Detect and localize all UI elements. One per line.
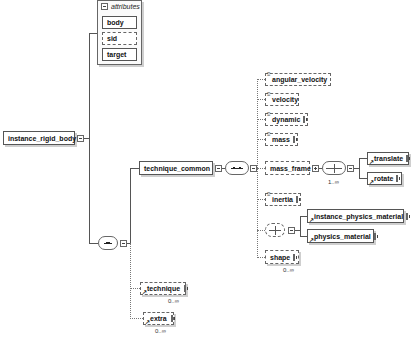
expand-icon[interactable] <box>303 116 305 123</box>
reference-arrow-icon: ↗ <box>142 289 147 295</box>
sequence-compositor[interactable] <box>98 236 118 250</box>
attributes-header[interactable]: attributes <box>101 3 140 10</box>
attribute-marker-icon: ≡ <box>267 91 271 97</box>
expand-icon[interactable] <box>312 165 319 172</box>
element-label: shape <box>270 254 290 261</box>
connector <box>130 168 139 169</box>
expand-icon[interactable] <box>406 213 408 220</box>
element-label: mass <box>272 136 290 143</box>
connector <box>130 168 131 243</box>
attribute-label: target <box>107 51 126 58</box>
connector <box>359 178 367 179</box>
sequence-compositor[interactable] <box>225 161 249 175</box>
cardinality-label: 0..∞ <box>283 267 294 273</box>
element-mass-frame[interactable]: mass_frame <box>265 161 310 175</box>
collapse-icon[interactable] <box>101 3 108 10</box>
connector <box>300 216 307 217</box>
collapse-icon[interactable] <box>120 240 127 247</box>
element-label: physics_material <box>314 233 371 240</box>
connector <box>257 168 265 169</box>
reference-arrow-icon: ↗ <box>145 319 150 325</box>
element-angular-velocity[interactable]: ≡ angular_velocity <box>265 73 331 86</box>
choice-compositor[interactable] <box>265 223 285 237</box>
collapse-icon[interactable] <box>347 165 354 172</box>
attribute-body[interactable]: body <box>102 16 137 29</box>
connector <box>359 158 367 159</box>
sequence-icon <box>231 168 243 169</box>
expand-icon[interactable] <box>171 315 173 322</box>
cardinality-label: 0..∞ <box>168 298 179 304</box>
connector <box>257 79 265 80</box>
element-rotate[interactable]: ↗ rotate <box>367 172 402 185</box>
reference-arrow-icon: ↗ <box>309 237 314 243</box>
expand-icon[interactable] <box>296 196 298 203</box>
element-label: angular_velocity <box>272 76 327 83</box>
cardinality-label: 1..∞ <box>328 179 339 185</box>
collapse-icon[interactable] <box>215 165 222 172</box>
root-element-instance-rigid-body[interactable]: instance_rigid_body <box>3 131 75 145</box>
connector <box>130 243 131 319</box>
expand-icon[interactable] <box>293 136 295 143</box>
choice-icon <box>275 226 276 235</box>
element-instance-physics-material[interactable]: ↗ instance_physics_material <box>307 209 404 223</box>
expand-icon[interactable] <box>406 155 408 162</box>
root-label: instance_rigid_body <box>8 135 76 142</box>
expand-icon[interactable] <box>184 285 186 292</box>
choice-icon <box>334 164 335 173</box>
element-shape[interactable]: shape <box>265 250 299 264</box>
element-technique-common[interactable]: technique_common <box>139 161 213 175</box>
attribute-target[interactable]: target <box>102 48 137 61</box>
element-label: rotate <box>374 175 393 182</box>
collapse-icon[interactable] <box>77 135 84 142</box>
attribute-label: body <box>107 19 124 26</box>
element-label: velocity <box>272 96 298 103</box>
attribute-marker-icon: ≡ <box>267 131 271 137</box>
connector <box>300 236 307 237</box>
connector <box>89 33 90 244</box>
element-velocity[interactable]: ≡ velocity <box>265 93 299 106</box>
element-translate[interactable]: ↗ translate <box>367 152 409 165</box>
connector <box>359 158 360 178</box>
element-label: technique <box>147 285 180 292</box>
attribute-marker-icon: ≡ <box>267 191 271 197</box>
connector <box>130 288 140 289</box>
element-inertia[interactable]: ≡ inertia <box>265 193 301 206</box>
element-mass[interactable]: ≡ mass <box>265 133 298 146</box>
element-label: technique_common <box>144 165 210 172</box>
element-label: mass_frame <box>270 165 311 172</box>
connector <box>84 138 89 139</box>
reference-arrow-icon: ↗ <box>369 179 374 185</box>
connector <box>257 257 265 258</box>
cardinality-label: 0..∞ <box>155 328 166 334</box>
attributes-header-label: attributes <box>111 3 140 10</box>
connector <box>257 99 265 100</box>
expand-icon[interactable] <box>396 175 398 182</box>
connector <box>257 230 265 231</box>
connector <box>89 243 98 244</box>
connector <box>257 199 265 200</box>
sequence-icon <box>104 243 112 244</box>
element-dynamic[interactable]: ≡ dynamic <box>265 113 308 126</box>
choice-compositor[interactable] <box>322 161 346 175</box>
attribute-marker-icon: ≡ <box>267 71 271 77</box>
element-label: inertia <box>272 196 293 203</box>
collapse-icon[interactable] <box>288 227 295 234</box>
attribute-sid[interactable]: sid <box>102 32 137 45</box>
expand-icon[interactable] <box>374 233 376 240</box>
attributes-group: attributes body sid target <box>97 0 142 65</box>
collapse-icon[interactable] <box>250 165 257 172</box>
element-extra[interactable]: ↗ extra <box>143 312 174 325</box>
element-label: dynamic <box>272 116 300 123</box>
attribute-label: sid <box>107 35 117 42</box>
connector <box>130 318 143 319</box>
reference-arrow-icon: ↗ <box>369 159 374 165</box>
element-label: extra <box>150 315 167 322</box>
connector <box>89 33 97 34</box>
connector <box>257 139 265 140</box>
element-label: translate <box>374 155 403 162</box>
element-technique[interactable]: ↗ technique <box>140 282 186 295</box>
element-label: instance_physics_material <box>314 213 403 220</box>
reference-arrow-icon: ↗ <box>309 217 314 223</box>
expand-icon[interactable] <box>293 254 295 261</box>
element-physics-material[interactable]: ↗ physics_material <box>307 229 374 243</box>
